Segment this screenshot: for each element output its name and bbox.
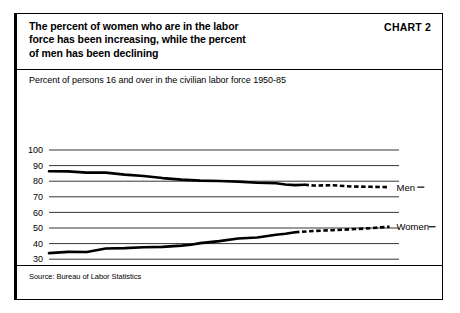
series-line-projected-men [304,185,389,187]
chart-card: The percent of women who are in the labo… [14,13,443,300]
series-line-women [49,232,295,253]
chart-number-label: CHART 2 [384,21,431,33]
y-axis-tick-label: 70 [33,192,43,202]
series-line-projected-women [295,227,390,232]
series-label-men: Men [397,182,415,193]
plot-area: Percent of persons 16 and over in the ci… [17,70,442,266]
y-axis-tick-label: 50 [33,223,43,233]
y-axis-tick-label: 40 [33,239,43,249]
chart-header: The percent of women who are in the labo… [17,14,442,70]
y-axis-tick-label: 60 [33,208,43,218]
series-label-women: Women [397,221,430,232]
y-axis-tick-label: 100 [28,145,43,155]
y-axis-tick-label: 80 [33,176,43,186]
y-axis-tick-label: 90 [33,161,43,171]
source-note: Source: Bureau of Labor Statistics [29,272,442,281]
y-axis-tick-label: 30 [33,254,43,264]
line-chart-svg: 0102030405060708090100195019551960196519… [17,70,444,266]
chart-footer: Source: Bureau of Labor Statistics [17,266,442,299]
page-title: The percent of women who are in the labo… [29,20,329,60]
series-line-men [49,171,304,185]
